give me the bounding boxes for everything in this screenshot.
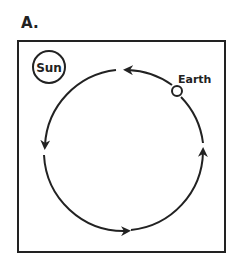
sun-icon: Sun [33,51,65,83]
arrow-icon [128,70,172,85]
arrow-icon [131,152,203,230]
orbit-segment [181,97,203,143]
arrow-icon [44,155,126,231]
orbit-diagram: Sun Earth [0,0,239,276]
sun-label: Sun [36,61,62,75]
earth-label: Earth [178,73,211,86]
earth-icon: Earth [172,73,211,96]
